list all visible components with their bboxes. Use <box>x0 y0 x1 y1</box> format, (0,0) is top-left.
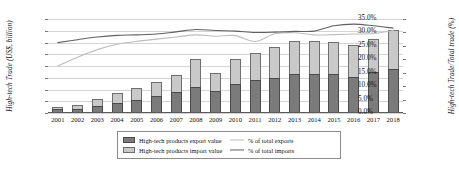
x-axis-line <box>48 112 403 113</box>
line-dark-swatch-icon <box>230 147 244 153</box>
y-tick-mark-right <box>403 59 406 60</box>
y-tick-mark-left <box>45 66 48 67</box>
y-tick-mark-right <box>403 19 406 20</box>
legend-item-import-value: High-tech products import value <box>123 147 230 154</box>
legend-label: High-tech products export value <box>139 137 222 144</box>
legend-label: % of total imports <box>248 147 294 154</box>
legend-item-pct-imports: % of total imports <box>230 147 335 154</box>
bar-dark-swatch-icon <box>123 137 135 143</box>
y-tick-mark-left <box>45 113 48 114</box>
y-tick-label-right: 20.0% <box>358 55 394 62</box>
y-tick-label-right: 5.0% <box>358 96 394 103</box>
y-tick-mark-right <box>403 100 406 101</box>
y-tick-mark-left <box>45 78 48 79</box>
gridline <box>48 113 403 114</box>
y-tick-label-right: 35.0% <box>358 15 394 22</box>
line-series-group <box>48 19 403 113</box>
legend-label: % of total exports <box>248 137 294 144</box>
y-tick-label-right: 10.0% <box>358 82 394 89</box>
legend-item-pct-exports: % of total exports <box>230 137 335 144</box>
legend-item-export-value: High-tech products export value <box>123 137 230 144</box>
plot-area <box>48 19 403 113</box>
x-tick-label: 2018 <box>381 116 405 123</box>
y-axis-left-title: High-tech Trade (US$, billion) <box>6 16 14 116</box>
y-tick-mark-right <box>403 73 406 74</box>
y-tick-label-right: 30.0% <box>358 28 394 35</box>
y-tick-mark-left <box>45 101 48 102</box>
y-tick-label-right: 15.0% <box>358 69 394 76</box>
y-axis-right-title: High-tech Trade/Total trade (%) <box>448 11 456 121</box>
y-tick-mark-left <box>45 31 48 32</box>
y-tick-mark-left <box>45 43 48 44</box>
y-tick-mark-right <box>403 86 406 87</box>
y-tick-mark-left <box>45 19 48 20</box>
y-tick-mark-right <box>403 113 406 114</box>
y-tick-mark-left <box>45 90 48 91</box>
chart-figure: High-tech Trade (US$, billion) High-tech… <box>0 0 459 175</box>
y-tick-mark-right <box>403 32 406 33</box>
chart-legend: High-tech products export value % of tot… <box>117 131 341 159</box>
line-series-pct-imports <box>58 24 393 43</box>
y-tick-label-right: 25.0% <box>358 42 394 49</box>
y-tick-mark-left <box>45 54 48 55</box>
line-light-swatch-icon <box>230 137 244 143</box>
legend-label: High-tech products import value <box>139 147 222 154</box>
bar-light-swatch-icon <box>123 147 135 153</box>
y-tick-mark-right <box>403 46 406 47</box>
